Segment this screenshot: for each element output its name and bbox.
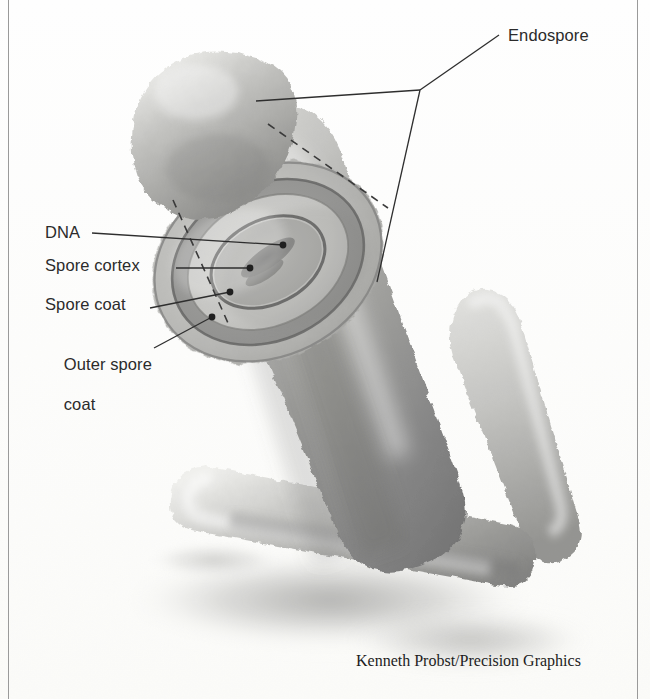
dot-spore-cortex <box>247 265 254 272</box>
left-frame-rule <box>8 0 9 699</box>
figure-panel: Endospore DNA Spore cortex Spore coat Ou… <box>0 0 650 699</box>
credit-line: Kenneth Probst/Precision Graphics <box>356 652 581 670</box>
label-endospore: Endospore <box>508 25 589 45</box>
label-outer-spore-coat-line2: coat <box>64 395 96 413</box>
label-outer-spore-coat: Outer spore coat <box>45 334 152 434</box>
dot-dna <box>280 242 287 249</box>
label-spore-cortex: Spore cortex <box>45 255 140 275</box>
right-frame-rule <box>637 0 638 699</box>
dot-outer-spore-coat <box>209 314 216 321</box>
label-outer-spore-coat-line1: Outer spore <box>64 355 152 373</box>
label-dna: DNA <box>45 222 80 242</box>
dot-spore-coat <box>227 289 234 296</box>
label-spore-coat: Spore coat <box>45 294 126 314</box>
